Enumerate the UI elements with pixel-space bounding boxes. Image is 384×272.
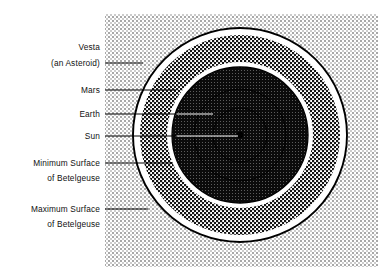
label-maximum-surface-line-1: Maximum Surface [31, 204, 100, 214]
label-earth-line-1: Earth [79, 109, 100, 119]
label-group-minimum-surface: Minimum Surface of Betelgeuse [33, 158, 100, 183]
label-sun-line-1: Sun [85, 131, 100, 141]
label-group-vesta: Vesta (an Asteroid) [51, 42, 100, 68]
label-vesta-line-2: (an Asteroid) [51, 58, 100, 68]
label-minimum-surface-line-2: of Betelgeuse [47, 173, 100, 183]
label-mars-line-1: Mars [81, 85, 100, 95]
label-vesta-line-1: Vesta [78, 42, 100, 52]
label-minimum-surface-line-1: Minimum Surface [33, 158, 100, 168]
label-group-earth: Earth [79, 109, 100, 119]
label-maximum-surface-line-2: of Betelgeuse [47, 219, 100, 229]
sun-disc [237, 132, 243, 138]
label-group-mars: Mars [81, 85, 100, 95]
betelgeuse-scale-diagram: Vesta (an Asteroid) Mars Earth Sun Minim… [0, 0, 384, 272]
label-group-maximum-surface: Maximum Surface of Betelgeuse [31, 204, 100, 229]
label-group-sun: Sun [85, 131, 100, 141]
